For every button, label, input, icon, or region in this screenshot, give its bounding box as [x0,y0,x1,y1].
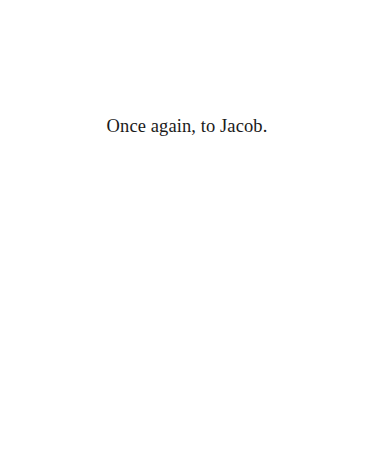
dedication-text: Once again, to Jacob. [0,115,374,137]
dedication-page: Once again, to Jacob. [0,0,374,458]
